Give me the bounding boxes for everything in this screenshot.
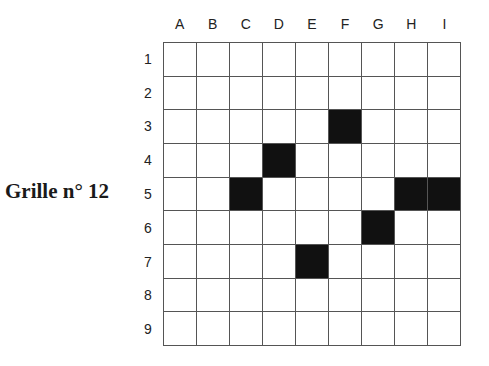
- column-label-h: H: [395, 14, 428, 34]
- grid-cell-g1[interactable]: [361, 42, 394, 76]
- grid-cell-g2[interactable]: [361, 76, 394, 110]
- grid-cell-h3[interactable]: [394, 109, 427, 143]
- grid-cell-a8[interactable]: [163, 278, 196, 312]
- row-label-4: 4: [138, 143, 158, 177]
- grid-cell-b8[interactable]: [196, 278, 229, 312]
- grid-cell-f6[interactable]: [328, 210, 361, 244]
- grid-cell-h6[interactable]: [394, 210, 427, 244]
- row-label-6: 6: [138, 211, 158, 245]
- row-labels: 123456789: [138, 42, 158, 346]
- black-cell-g6: [361, 210, 394, 244]
- grid-cell-h1[interactable]: [394, 42, 427, 76]
- black-cell-i5: [427, 177, 460, 211]
- grid-cell-f8[interactable]: [328, 278, 361, 312]
- grid-cell-b7[interactable]: [196, 244, 229, 278]
- grid-cell-i6[interactable]: [427, 210, 460, 244]
- grid-cell-g5[interactable]: [361, 177, 394, 211]
- grid-cell-f4[interactable]: [328, 143, 361, 177]
- row-label-8: 8: [138, 278, 158, 312]
- grid-cell-b1[interactable]: [196, 42, 229, 76]
- grid-cell-g9[interactable]: [361, 311, 394, 345]
- column-label-d: D: [262, 14, 295, 34]
- grid-cell-e4[interactable]: [295, 143, 328, 177]
- grid-cell-c6[interactable]: [229, 210, 262, 244]
- grid-cell-g7[interactable]: [361, 244, 394, 278]
- grid-cell-i8[interactable]: [427, 278, 460, 312]
- grid-cell-a1[interactable]: [163, 42, 196, 76]
- grid-cell-d5[interactable]: [262, 177, 295, 211]
- grid-cell-e1[interactable]: [295, 42, 328, 76]
- grid-cell-h8[interactable]: [394, 278, 427, 312]
- grid-cell-d7[interactable]: [262, 244, 295, 278]
- grid-cell-h2[interactable]: [394, 76, 427, 110]
- grid-cell-b9[interactable]: [196, 311, 229, 345]
- grid-cell-d2[interactable]: [262, 76, 295, 110]
- black-cell-f3: [328, 109, 361, 143]
- grid-cell-h4[interactable]: [394, 143, 427, 177]
- grid-cell-d3[interactable]: [262, 109, 295, 143]
- grid-cell-f1[interactable]: [328, 42, 361, 76]
- grid-cell-c1[interactable]: [229, 42, 262, 76]
- column-label-a: A: [163, 14, 196, 34]
- grid-cell-f7[interactable]: [328, 244, 361, 278]
- black-cell-c5: [229, 177, 262, 211]
- grid-cell-c4[interactable]: [229, 143, 262, 177]
- grid-cell-c7[interactable]: [229, 244, 262, 278]
- grid-title: Grille n° 12: [5, 179, 109, 203]
- grid-cell-b6[interactable]: [196, 210, 229, 244]
- column-label-e: E: [295, 14, 328, 34]
- grid-cell-d9[interactable]: [262, 311, 295, 345]
- grid-cell-a2[interactable]: [163, 76, 196, 110]
- grid-cell-b2[interactable]: [196, 76, 229, 110]
- grid-cell-i9[interactable]: [427, 311, 460, 345]
- grid-cell-a5[interactable]: [163, 177, 196, 211]
- grid-cell-i2[interactable]: [427, 76, 460, 110]
- grid-cell-b5[interactable]: [196, 177, 229, 211]
- grid-cell-e5[interactable]: [295, 177, 328, 211]
- grid-cell-d6[interactable]: [262, 210, 295, 244]
- grid-cell-a6[interactable]: [163, 210, 196, 244]
- grid-cell-g8[interactable]: [361, 278, 394, 312]
- grid-cell-c3[interactable]: [229, 109, 262, 143]
- row-label-5: 5: [138, 177, 158, 211]
- grid-cell-f2[interactable]: [328, 76, 361, 110]
- grid-cell-g4[interactable]: [361, 143, 394, 177]
- grid-cell-i4[interactable]: [427, 143, 460, 177]
- grid-cell-b4[interactable]: [196, 143, 229, 177]
- grid-cell-h7[interactable]: [394, 244, 427, 278]
- grid-cell-c8[interactable]: [229, 278, 262, 312]
- grid-cell-c2[interactable]: [229, 76, 262, 110]
- grid-cell-d8[interactable]: [262, 278, 295, 312]
- grid-cell-c9[interactable]: [229, 311, 262, 345]
- grid-cell-i3[interactable]: [427, 109, 460, 143]
- column-label-i: I: [428, 14, 461, 34]
- grid-cell-e2[interactable]: [295, 76, 328, 110]
- grid-cell-a9[interactable]: [163, 311, 196, 345]
- black-cell-d4: [262, 143, 295, 177]
- grid-cell-f9[interactable]: [328, 311, 361, 345]
- column-labels: ABCDEFGHI: [163, 14, 461, 34]
- column-label-b: B: [196, 14, 229, 34]
- grid-cell-h9[interactable]: [394, 311, 427, 345]
- row-label-3: 3: [138, 110, 158, 144]
- grid-cell-i7[interactable]: [427, 244, 460, 278]
- column-label-c: C: [229, 14, 262, 34]
- row-label-7: 7: [138, 245, 158, 279]
- column-label-g: G: [362, 14, 395, 34]
- grid-cell-b3[interactable]: [196, 109, 229, 143]
- grid-cell-g3[interactable]: [361, 109, 394, 143]
- grid-cell-e8[interactable]: [295, 278, 328, 312]
- crossword-grid: [163, 42, 461, 346]
- row-label-2: 2: [138, 76, 158, 110]
- grid-cell-a7[interactable]: [163, 244, 196, 278]
- column-label-f: F: [329, 14, 362, 34]
- grid-cell-d1[interactable]: [262, 42, 295, 76]
- grid-cell-e3[interactable]: [295, 109, 328, 143]
- grid-cell-e6[interactable]: [295, 210, 328, 244]
- grid-cell-a3[interactable]: [163, 109, 196, 143]
- grid-cell-f5[interactable]: [328, 177, 361, 211]
- row-label-9: 9: [138, 312, 158, 346]
- grid-cell-i1[interactable]: [427, 42, 460, 76]
- grid-cell-a4[interactable]: [163, 143, 196, 177]
- grid-cell-e9[interactable]: [295, 311, 328, 345]
